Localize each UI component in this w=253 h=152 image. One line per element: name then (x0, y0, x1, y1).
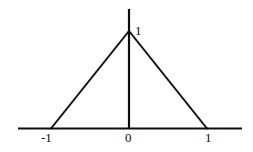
x-tick-label-one: 1 (205, 131, 212, 144)
x-tick-label-zero: 0 (125, 131, 132, 144)
apex-value-label: 1 (135, 24, 142, 37)
x-tick-label-minus-one: -1 (41, 131, 52, 144)
triangular-function-plot: -1 0 1 1 (0, 0, 253, 152)
